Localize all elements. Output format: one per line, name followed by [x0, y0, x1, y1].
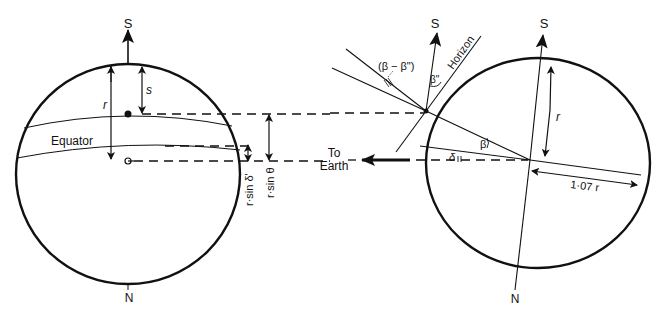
- sphere-geometry-diagram: S N r s Equator r·sin δ' r·sin θ To Eart…: [0, 0, 654, 311]
- beta-double-prime-label: β": [430, 74, 440, 85]
- r-sin-delta-label: r·sin δ': [243, 173, 255, 206]
- horizon-label: Horizon: [445, 33, 477, 71]
- local-s-arrow-icon: [426, 33, 437, 111]
- left-pole-s-label: S: [124, 16, 133, 31]
- distance-arrow-left-icon: [532, 171, 585, 178]
- left-sphere: S N r s Equator r·sin δ' r·sin θ: [16, 16, 330, 305]
- equator-label: Equator: [51, 134, 93, 148]
- right-axis-s-arrow-icon: [530, 35, 543, 160]
- right-pole-n-label: N: [511, 292, 520, 306]
- to-earth-label-line1: To: [328, 146, 341, 160]
- left-radius-label: r: [103, 98, 108, 112]
- r-sin-theta-label: r·sin θ: [264, 167, 276, 198]
- delta-label: δ: [449, 151, 456, 163]
- beta-label: β: [480, 138, 486, 150]
- surface-point-dot: [125, 111, 132, 118]
- right-r-arrow-down-icon: [545, 110, 550, 156]
- left-pole-n-label: N: [125, 291, 134, 305]
- s-distance-label: s: [146, 83, 152, 97]
- horizon-line: [396, 36, 481, 152]
- right-r-arrow-up-icon: [550, 67, 551, 110]
- line-center-to-point: [426, 111, 530, 160]
- right-sphere-outline: [426, 58, 650, 268]
- right-radius-label: r: [556, 110, 561, 124]
- latitude-curve: [24, 116, 232, 128]
- local-s-label: S: [431, 16, 440, 31]
- left-sphere-outline: [16, 64, 240, 284]
- line-center-delta: [420, 146, 530, 160]
- to-earth-indicator: To Earth: [320, 146, 410, 173]
- right-pole-s-label: S: [540, 16, 549, 31]
- right-axis-lower: [515, 160, 530, 290]
- right-surface-point: [424, 109, 429, 114]
- to-earth-label-line2: Earth: [320, 159, 349, 173]
- beta-difference-label: (β − β"): [378, 60, 414, 72]
- distance-label: 1·07 r: [570, 178, 600, 193]
